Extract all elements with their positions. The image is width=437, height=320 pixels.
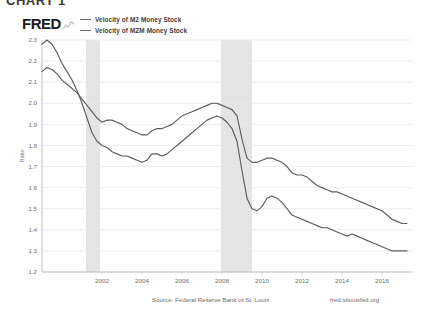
y-tick-label: 1.3 xyxy=(28,247,37,254)
y-axis-ticks: 2.32.22.12.01.91.81.71.61.51.41.31.2 xyxy=(28,36,42,275)
y-tick-label: 1.9 xyxy=(28,121,37,128)
recession-band xyxy=(86,40,100,272)
y-tick-label: 1.2 xyxy=(28,268,37,275)
y-tick-label: 1.4 xyxy=(28,226,37,233)
x-tick-label: 2012 xyxy=(295,277,309,284)
x-tick-label: 2006 xyxy=(175,277,189,284)
x-tick-label: 2014 xyxy=(335,277,349,284)
x-tick-label: 2004 xyxy=(135,277,149,284)
y-tick-label: 2.3 xyxy=(28,36,37,43)
chart-page: CHART 1 FRED Velocity of M2 Money Stock … xyxy=(0,0,437,320)
y-tick-label: 1.5 xyxy=(28,205,37,212)
y-axis-label: Ratio xyxy=(19,149,25,162)
y-tick-label: 1.6 xyxy=(28,184,37,191)
x-tick-label: 2002 xyxy=(95,277,109,284)
y-tick-label: 1.8 xyxy=(28,142,37,149)
y-tick-label: 2.1 xyxy=(28,78,37,85)
recession-shading-group xyxy=(86,40,252,272)
x-tick-label: 2016 xyxy=(375,277,389,284)
y-tick-label: 2.0 xyxy=(28,99,37,106)
source-note: Source: Federal Reserve Bank of St. Loui… xyxy=(152,296,269,303)
x-tick-label: 2008 xyxy=(215,277,229,284)
recession-band xyxy=(221,40,252,272)
line-chart-svg: 2.32.22.12.01.91.81.71.61.51.41.31.2 200… xyxy=(0,0,437,320)
fred-url[interactable]: fred.stlouisfed.org xyxy=(330,296,379,303)
x-axis-ticks: 20022004200620082010201220142016 xyxy=(42,272,412,284)
plot-area: 2.32.22.12.01.91.81.71.61.51.41.31.2 200… xyxy=(0,0,437,320)
y-tick-label: 2.2 xyxy=(28,57,37,64)
y-tick-label: 1.7 xyxy=(28,163,37,170)
x-tick-label: 2010 xyxy=(255,277,269,284)
